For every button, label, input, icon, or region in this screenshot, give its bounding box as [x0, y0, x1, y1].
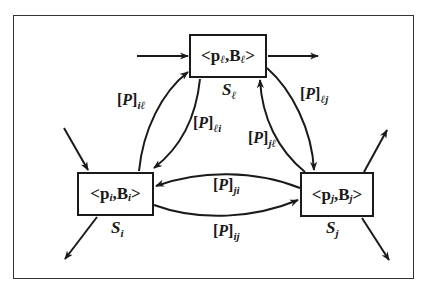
node-j: <pj,Bj>: [300, 172, 374, 217]
arrow-out-i: [65, 217, 97, 259]
state-label-j: Sj: [326, 218, 339, 238]
node-l: <pℓ,Bℓ>: [189, 34, 267, 78]
node-l-sub2: ℓ: [241, 53, 246, 65]
edge-label-lj: [P]ℓj: [300, 85, 328, 103]
state-j-sub: j: [335, 227, 338, 239]
matrix-symbol: P: [253, 129, 263, 146]
matrix-symbol: P: [305, 85, 315, 102]
node-j-text: <p: [312, 185, 331, 205]
edge-l-to-j: [267, 68, 314, 170]
state-i-sub: i: [120, 227, 123, 239]
edge-sub: ℓi: [213, 122, 221, 134]
edge-sub: ji: [233, 184, 239, 196]
node-i-sub2: i: [128, 191, 131, 203]
state-transition-diagram: <pℓ,Bℓ> Sℓ <pi,Bi> Si <pj,Bj> Sj [P]iℓ […: [0, 0, 429, 291]
matrix-symbol: P: [218, 176, 228, 193]
node-i: <pi,Bi>: [77, 172, 154, 216]
edge-label-jl: [P]jℓ: [248, 129, 276, 147]
edge-label-ij: [P]ij: [213, 222, 240, 240]
matrix-symbol: P: [198, 114, 208, 131]
node-l-sub1: ℓ: [220, 53, 225, 65]
node-j-mid: ,B: [334, 185, 350, 205]
node-i-sub1: i: [109, 191, 112, 203]
node-l-mid: ,B: [225, 46, 241, 66]
node-i-suffix: >: [131, 184, 141, 204]
edge-label-ji: [P]ji: [213, 176, 240, 194]
node-i-text: <p: [90, 184, 109, 204]
node-l-suffix: >: [245, 46, 255, 66]
edge-label-il: [P]iℓ: [117, 91, 145, 109]
matrix-symbol: P: [218, 222, 228, 239]
edge-label-li: [P]ℓi: [193, 114, 221, 132]
state-label-i: Si: [111, 218, 124, 238]
state-l-sub: ℓ: [231, 89, 236, 101]
arrow-out-j-down: [362, 218, 389, 260]
node-j-suffix: >: [353, 185, 363, 205]
edge-sub: ℓj: [320, 93, 328, 105]
arrow-in-i: [64, 128, 88, 170]
node-j-sub1: j: [331, 192, 334, 204]
edge-sub: iℓ: [137, 99, 145, 111]
node-i-mid: ,B: [112, 184, 128, 204]
edge-i-to-j: [154, 200, 298, 216]
edge-sub: jℓ: [268, 137, 276, 149]
node-l-text: <p: [201, 46, 220, 66]
matrix-symbol: P: [122, 91, 132, 108]
edge-i-to-l: [139, 72, 188, 171]
edge-j-to-l: [260, 80, 305, 172]
state-label-l: Sℓ: [222, 80, 236, 100]
arrow-out-j-up: [364, 130, 387, 172]
node-j-sub2: j: [350, 192, 353, 204]
edge-sub: ij: [233, 230, 239, 242]
